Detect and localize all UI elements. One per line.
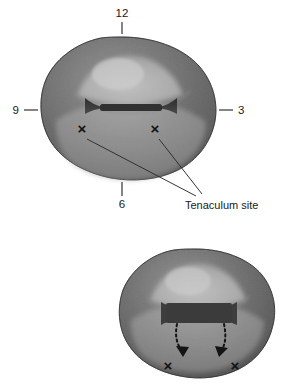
clock-label-12: 12: [116, 7, 129, 19]
tenaculum-x-mark-right-upper: ×: [151, 120, 160, 137]
clock-label-3: 3: [238, 104, 244, 116]
tenaculum-x-mark-left-upper: ×: [78, 120, 87, 137]
cervical-os-lower-dilated: [161, 302, 237, 325]
figure-canvas: 12 3 6 9 × × Tenaculum site: [0, 0, 296, 389]
medical-illustration-figure: 12 3 6 9 × × Tenaculum site: [0, 0, 296, 389]
anterior-lip-highlight-lower: [165, 267, 211, 295]
tenaculum-x-mark-left-lower: ×: [164, 357, 173, 374]
anterior-lip-highlight-upper: [92, 58, 144, 90]
tenaculum-site-callout: Tenaculum site: [185, 199, 258, 211]
clock-label-6: 6: [119, 198, 125, 210]
tenaculum-x-mark-right-lower: ×: [231, 357, 240, 374]
clock-label-9: 9: [13, 104, 19, 116]
panel-lower-cervix: × ×: [119, 249, 274, 378]
